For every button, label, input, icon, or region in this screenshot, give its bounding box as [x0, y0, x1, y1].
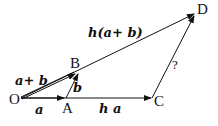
- vector-diagram: O A B C D a b a+ b h a h(a+ b) ?: [0, 0, 218, 126]
- point-label-d: D: [197, 1, 208, 17]
- vector-label-ha: h a: [99, 101, 121, 116]
- point-label-o: O: [9, 91, 20, 107]
- point-label-b: B: [70, 55, 80, 71]
- vector-label-a-plus-b: a+ b: [15, 73, 48, 88]
- point-label-a: A: [62, 100, 73, 116]
- point-label-c: C: [154, 93, 164, 109]
- vector-label-a: a: [35, 102, 43, 117]
- vector-label-question: ?: [172, 57, 178, 72]
- vector-label-h-a-plus-b: h(a+ b): [88, 25, 143, 40]
- vector-label-b: b: [73, 80, 82, 95]
